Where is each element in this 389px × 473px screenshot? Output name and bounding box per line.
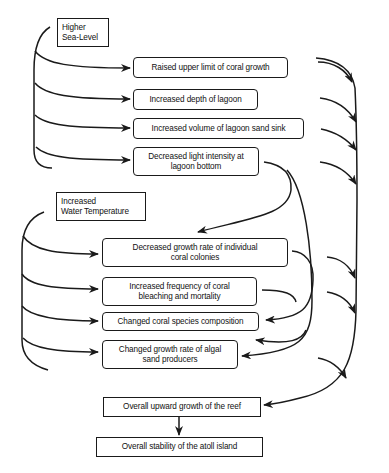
arrow-temp-to-algal <box>23 338 98 352</box>
driver-higher-sea-level: Higher Sea-Level <box>57 18 109 47</box>
outcome-upward-growth: Overall upward growth of the reef <box>103 397 261 417</box>
arrow-to-species-lower <box>256 330 306 342</box>
arrow-light-to-collector <box>320 162 356 184</box>
effect-raised-upper-limit: Raised upper limit of coral growth <box>133 57 288 78</box>
outcome-atoll-stability: Overall stability of the atoll island <box>96 437 263 457</box>
arrow-raised-to-collector <box>318 62 352 82</box>
effect-changed-species: Changed coral species composition <box>102 312 259 331</box>
arrow-sea-to-volume <box>35 115 130 128</box>
arrow-sea-to-depth <box>35 83 130 99</box>
arrow-temp-to-species <box>22 306 98 321</box>
arrow-growth-to-collector <box>327 257 355 278</box>
atoll-impact-diagram: Higher Sea-Level Increased Water Tempera… <box>0 0 389 473</box>
arrow-depth-to-collector <box>320 98 356 122</box>
arrow-bleach-to-collector <box>327 292 355 313</box>
arrow-sea-to-light <box>36 147 130 160</box>
effect-increased-volume: Increased volume of lagoon sand sink <box>133 118 304 139</box>
arrow-temp-to-bleach <box>22 274 98 289</box>
arrow-bleach-to-species <box>262 290 296 302</box>
effect-decreased-light: Decreased light intensity at lagoon bott… <box>133 147 259 176</box>
effect-increased-depth: Increased depth of lagoon <box>133 89 258 110</box>
arrow-volume-to-collector <box>321 129 356 150</box>
arrow-sea-to-raised <box>35 51 130 68</box>
driver-increased-water-temperature: Increased Water Temperature <box>56 192 146 221</box>
effect-changed-algal-growth: Changed growth rate of algal sand produc… <box>102 340 238 369</box>
collector-line <box>264 58 357 405</box>
effect-increased-bleaching: Increased frequency of coral bleaching a… <box>102 277 257 306</box>
effect-decreased-growth-rate: Decreased growth rate of individual cora… <box>102 238 288 267</box>
arrow-temp-to-growth <box>23 236 98 254</box>
arrow-algal-to-collector <box>318 358 346 378</box>
temp-bracket-line <box>22 212 48 370</box>
